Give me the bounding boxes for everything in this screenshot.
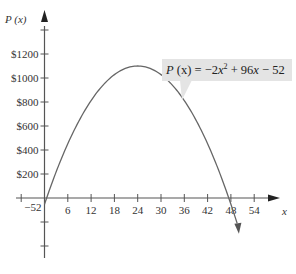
equation-label: P (x) = −2x2 + 96x − 52 [166, 62, 285, 78]
x-axis-label: x [281, 205, 287, 217]
eq-p: P [166, 63, 174, 77]
x-tick-label: 24 [132, 204, 144, 216]
x-tick-label: 6 [65, 204, 71, 216]
parabola-path [45, 66, 238, 223]
y-tick-label: $200 [17, 168, 40, 180]
y-axis-arrow-icon [41, 10, 48, 22]
y-axis-label: P (x) [4, 13, 27, 26]
x-axis-arrow-icon [268, 195, 280, 202]
x-tick-label: 54 [249, 204, 261, 216]
y-tick-label: $400 [17, 144, 40, 156]
x-tick-label: 42 [202, 204, 213, 216]
x-tick-label: 18 [109, 204, 121, 216]
eq-arg: (x) [177, 63, 192, 77]
axis-ticks: P (x)x61218243036424854$200$400$600$800$… [4, 13, 287, 246]
y-tick-label: $1200 [11, 48, 39, 60]
y-intercept-label: −52 [24, 201, 41, 213]
curve-arrow-icon [234, 223, 241, 234]
x-tick-label: 12 [86, 204, 97, 216]
eq-part: − 52 [259, 63, 285, 77]
eq-part: + 96 [228, 63, 254, 77]
eq-part: = −2 [191, 63, 218, 77]
x-tick-label: 36 [179, 204, 191, 216]
y-tick-label: $800 [17, 96, 40, 108]
y-tick-label: $1000 [11, 72, 39, 84]
y-tick-label: $600 [17, 120, 40, 132]
axes [16, 10, 280, 258]
x-tick-label: 30 [156, 204, 168, 216]
chart-canvas: P (x)x61218243036424854$200$400$600$800$… [0, 0, 296, 274]
